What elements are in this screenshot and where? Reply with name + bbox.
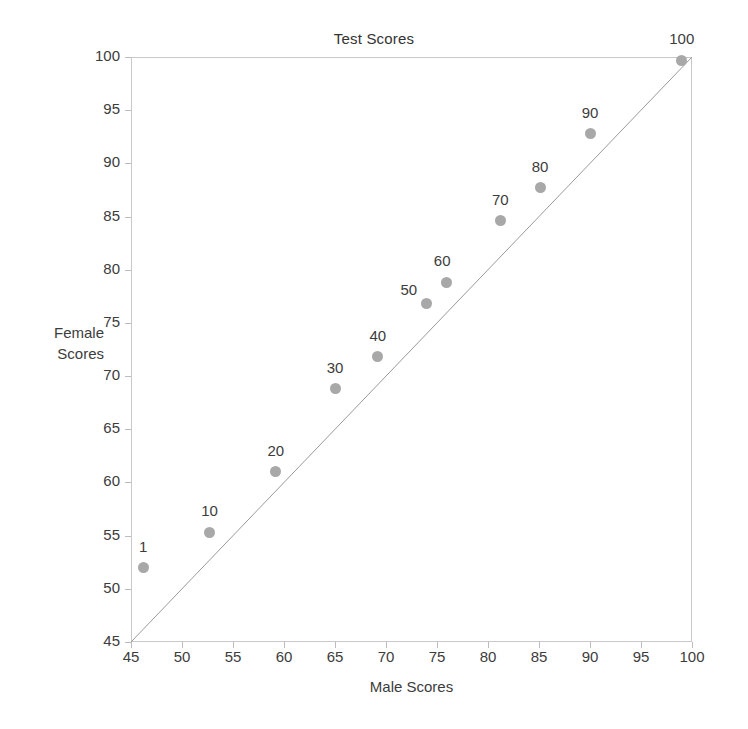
y-tick: [125, 163, 131, 164]
y-tick-label: 55: [10, 526, 120, 543]
data-point-label: 80: [532, 158, 549, 175]
data-point-label: 100: [669, 30, 694, 47]
data-point[interactable]: [204, 527, 215, 538]
chart-title: Test Scores: [0, 30, 748, 47]
y-tick: [125, 270, 131, 271]
y-tick-label: 95: [10, 100, 120, 117]
reference-line: [131, 57, 692, 642]
data-point-label: 40: [369, 327, 386, 344]
y-tick: [125, 589, 131, 590]
y-tick: [125, 57, 131, 58]
y-tick-label: 60: [10, 472, 120, 489]
data-point-label: 70: [492, 191, 509, 208]
y-tick-label: 75: [10, 313, 120, 330]
y-tick: [125, 429, 131, 430]
y-tick-label: 50: [10, 579, 120, 596]
y-tick-label: 100: [10, 47, 120, 64]
x-axis-title: Male Scores: [131, 678, 692, 695]
y-tick-label: 70: [10, 366, 120, 383]
y-tick: [125, 323, 131, 324]
data-point[interactable]: [441, 277, 452, 288]
data-point[interactable]: [495, 215, 506, 226]
y-tick: [125, 482, 131, 483]
data-point-label: 50: [400, 281, 417, 298]
plot-right-border: [691, 57, 692, 642]
x-tick-label: 100: [662, 648, 722, 665]
data-point-label: 20: [267, 442, 284, 459]
data-point-label: 1: [139, 538, 147, 555]
data-point[interactable]: [535, 182, 546, 193]
y-tick-label: 85: [10, 207, 120, 224]
y-tick-label: 80: [10, 260, 120, 277]
y-tick: [125, 376, 131, 377]
y-tick: [125, 217, 131, 218]
y-tick-label: 90: [10, 153, 120, 170]
x-axis-line: [131, 641, 692, 642]
y-tick-label: 65: [10, 419, 120, 436]
data-point-label: 90: [582, 104, 599, 121]
data-point[interactable]: [676, 55, 687, 66]
data-point-label: 10: [201, 502, 218, 519]
y-tick: [125, 110, 131, 111]
data-point-label: 60: [434, 252, 451, 269]
data-point-label: 30: [327, 359, 344, 376]
data-point[interactable]: [138, 562, 149, 573]
data-point[interactable]: [421, 298, 432, 309]
scatter-chart: Test Scores Female Scores 45505560657075…: [0, 0, 748, 729]
data-point[interactable]: [585, 128, 596, 139]
data-point[interactable]: [330, 383, 341, 394]
data-point[interactable]: [372, 351, 383, 362]
plot-top-border: [131, 57, 692, 58]
x-tick-labels: 4550556065707580859095100: [131, 648, 692, 672]
y-axis-line: [131, 57, 132, 642]
y-tick-label: 45: [10, 632, 120, 649]
y-tick: [125, 536, 131, 537]
data-point[interactable]: [270, 466, 281, 477]
plot-area: 1102030405060708090100: [131, 57, 692, 642]
